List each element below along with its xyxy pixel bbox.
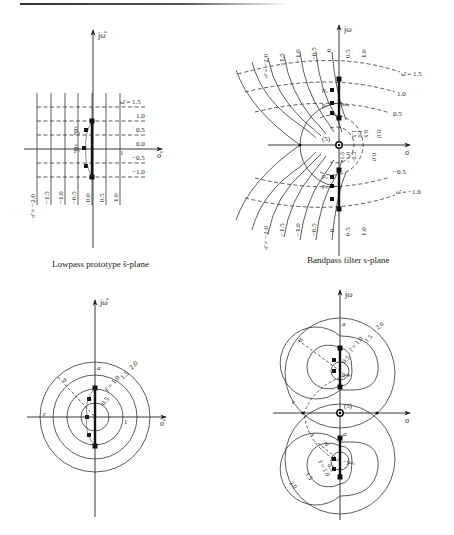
point-label-a: a — [97, 364, 101, 372]
sigma-label: −0.5 — [310, 47, 318, 60]
omega-label: 0.5 — [136, 126, 145, 134]
omega-label: 1.0 — [136, 112, 145, 120]
imag-axis-label: jω — [343, 25, 352, 34]
mapped-arc — [304, 375, 350, 462]
sigma-label: −1.5 — [278, 53, 286, 66]
pole-label-p2: p₂ — [322, 172, 329, 180]
pole-label-p1: p₁ — [322, 101, 328, 109]
radius-label: 0.5 — [99, 395, 111, 407]
point-label-b: b — [325, 440, 329, 448]
sigma-label: 0.5 — [344, 227, 352, 236]
pole-marker — [330, 197, 334, 201]
lower-center-label: −jω₀ — [343, 458, 355, 465]
radius-label: r̂ = 1.0 — [347, 335, 364, 353]
pole-marker — [330, 175, 334, 179]
origin-zero-label: (5) — [344, 402, 353, 410]
pole-label-p2: p₂ — [322, 86, 329, 94]
real-axis-label: σ — [405, 416, 410, 425]
pole-label-p2: p̂₂ — [74, 126, 81, 135]
point-label-b: b — [63, 376, 67, 384]
bandpass-grid-panel: jω σ jω₀ (5) p₂ p₁ p₂ p₁ ω̂ = 1.5 1.0 0.… — [236, 25, 422, 256]
point-label-a: a — [343, 430, 347, 438]
sigma-label: 0.5 — [344, 49, 352, 58]
pole-label-p1: p̂₁ — [74, 144, 81, 153]
point-label-b: b — [299, 336, 303, 344]
radius-label: 1.5 — [363, 333, 374, 344]
inner-label: 1.0 — [357, 130, 363, 138]
sigma-label: −0.5 — [310, 223, 318, 236]
inner-label: 0.5 — [363, 130, 369, 138]
omega-label: 0.0 — [371, 153, 378, 161]
unit-tick-label: 1 — [124, 418, 128, 426]
radius-label: 2.0 — [374, 320, 385, 331]
inner-label: −0.5 — [351, 152, 357, 163]
omega-label: ω̂ = −1.0 — [396, 188, 421, 196]
sigma-label: −1.0 — [294, 223, 302, 236]
real-axis-label: σ̂ — [160, 419, 166, 428]
omega-label: −0.5 — [132, 154, 145, 162]
lowpass-grid-caption: Lowpass prototype ŝ-plane — [52, 259, 149, 269]
sigma-label: σ̂ = −2.0 — [262, 226, 270, 250]
pole-label-p1: p₁ — [322, 182, 328, 190]
omega-label: 0.0 — [136, 140, 145, 148]
sigma-label: 0.0 — [84, 193, 92, 202]
inner-label: 1.5 — [351, 130, 357, 138]
radius-label: 2.0 — [128, 359, 140, 371]
sigma-label: 0.5 — [98, 193, 106, 202]
point-label-c: c — [312, 430, 316, 438]
pole-marker — [330, 101, 334, 105]
sigma-label: −1.0 — [57, 191, 65, 204]
unit-tick-label: 1 — [120, 149, 124, 157]
point-label-a: a — [342, 320, 346, 328]
sigma-label: 0 — [328, 228, 336, 232]
real-axis-label: σ — [405, 148, 410, 157]
omega-label: −1.0 — [132, 168, 145, 176]
sigma-label: σ̂ = −2.0 — [262, 54, 270, 78]
omega-label: 0.5 — [393, 110, 402, 118]
pole-marker — [330, 111, 334, 115]
pole-marker — [330, 184, 334, 188]
lowpass-circles-panel: jω̂ σ̂ 1 0.5 r̂ = 1.0 1.5 2.0 a b c — [27, 298, 166, 517]
sigma-label: 1.0 — [360, 227, 368, 236]
center-freq-label: jω₀ — [340, 100, 349, 107]
imag-axis-label: jω̂ — [99, 298, 109, 307]
bandpass-circles-panel: jω σ (5) jω₀ −jω₀ 0.5 r̂ = 1.0 1.5 2.0 a… — [273, 290, 410, 520]
sigma-label: −1.0 — [294, 49, 302, 62]
bandpass-grid-caption: Bandpass filter s-plane — [307, 255, 389, 265]
sigma-label: 1.0 — [360, 49, 368, 58]
omega-label: −0.5 — [393, 168, 406, 176]
omega-label: 1.0 — [397, 90, 406, 98]
sigma-curves — [236, 52, 346, 240]
lowpass-grid-panel: jω̂ σ̂ 1 p̂₂ p̂₁ ω̂ = 1.5 1.0 0.5 0.0 −0… — [24, 30, 163, 248]
sigma-label: 0 — [325, 48, 333, 52]
sigma-label: −1.5 — [278, 223, 286, 236]
real-axis-label: σ̂ — [157, 151, 163, 160]
imag-axis-label: jω — [344, 290, 353, 299]
omega-label: 0.0 — [376, 130, 383, 138]
sigma-label: 1.0 — [112, 193, 120, 202]
pole-marker — [330, 88, 334, 92]
imag-axis-label: jω̂ — [97, 31, 107, 40]
sigma-label: −0.5 — [70, 191, 78, 204]
origin-zero-label: (5) — [322, 135, 331, 143]
radius-label: 1.5 — [304, 471, 314, 482]
sigma-label: −1.5 — [43, 191, 51, 204]
omega-label: ω̂ = 1.5 — [401, 70, 422, 78]
sigma-label: σ̂ = −2.0 — [29, 194, 37, 218]
upper-center-label: jω₀ — [341, 370, 350, 377]
pole-marker — [82, 146, 86, 150]
omega-label: ω̂ = 1.5 — [120, 98, 141, 106]
